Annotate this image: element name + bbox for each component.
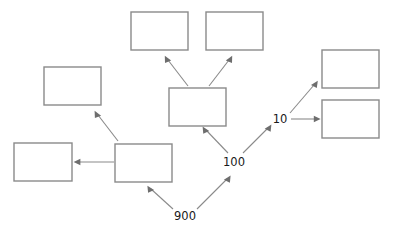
edge-center-to-top-left [165, 56, 188, 86]
box-right-upper[interactable] [322, 50, 379, 88]
edge-center-to-top-right [209, 56, 232, 86]
edge-bottom-mid-to-bottom-left [74, 159, 114, 165]
edge-bottom-mid-to-left-upper [95, 111, 118, 141]
junction-label-10: 10 [273, 112, 288, 126]
edge-10-to-right-lower [291, 116, 321, 122]
box-bottom-mid[interactable] [115, 144, 172, 182]
junction-label-900: 900 [174, 209, 196, 223]
edge-10-to-right-upper [290, 81, 318, 113]
edge-100-to-10 [243, 124, 271, 153]
junction-label-100: 100 [223, 155, 245, 169]
edge-900-to-bottom-mid [147, 186, 173, 209]
edge-900-to-100 [197, 175, 231, 209]
box-top-right[interactable] [206, 12, 263, 50]
box-bottom-left[interactable] [14, 143, 72, 181]
box-center[interactable] [169, 88, 226, 126]
box-top-left[interactable] [131, 12, 188, 50]
diagram-canvas: 900 100 10 [0, 0, 398, 238]
box-left-upper[interactable] [44, 67, 101, 105]
box-right-lower[interactable] [322, 100, 379, 138]
edge-100-to-center [203, 126, 228, 153]
